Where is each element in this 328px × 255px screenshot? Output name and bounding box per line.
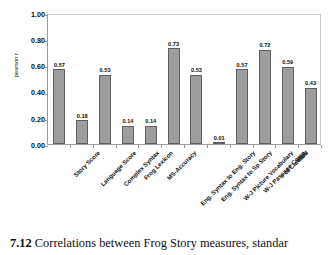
- x-axis-tick-mark: [138, 145, 139, 148]
- figure-bar-chart: pearson r 1.000.800.600.400.200.00 0.570…: [0, 0, 328, 255]
- x-axis-tick-mark: [116, 145, 117, 148]
- caption-text: Correlations between Frog Story measures…: [35, 236, 288, 250]
- bar[interactable]: [259, 50, 271, 144]
- x-axis-tick-mark: [230, 145, 231, 148]
- bar-value-label: 0.53: [100, 67, 111, 73]
- y-axis-tick-label: 1.00: [31, 11, 45, 18]
- y-axis-tick-label: 0.60: [31, 63, 45, 70]
- bar-slot: 0.14: [139, 15, 162, 144]
- x-axis-tick-mark: [207, 145, 208, 148]
- x-axis-tick-mark: [184, 145, 185, 148]
- bars-layer: 0.570.180.530.140.140.730.530.010.570.72…: [48, 15, 320, 144]
- x-axis-tick-mark: [70, 145, 71, 148]
- bar-slot: 0.53: [94, 15, 117, 144]
- figure-number: 7.12: [10, 236, 32, 250]
- bar[interactable]: [213, 142, 225, 144]
- bar-slot: 0.72: [254, 15, 277, 144]
- x-axis-tick-mark: [275, 145, 276, 148]
- bar-slot: 0.01: [208, 15, 231, 144]
- bar-slot: 0.59: [276, 15, 299, 144]
- bar[interactable]: [145, 126, 157, 144]
- bar[interactable]: [305, 88, 317, 144]
- bar-slot: 0.57: [231, 15, 254, 144]
- x-axis-tick-mark: [93, 145, 94, 148]
- bar[interactable]: [53, 69, 65, 144]
- x-axis-tick-mark: [161, 145, 162, 148]
- bar-value-label: 0.59: [282, 59, 293, 65]
- x-axis-tick-mark: [253, 145, 254, 148]
- bar[interactable]: [236, 69, 248, 144]
- bar[interactable]: [99, 75, 111, 144]
- bar-value-label: 0.14: [122, 118, 133, 124]
- y-axis-tick-label: 0.40: [31, 89, 45, 96]
- y-axis-tick-mark: [45, 41, 48, 42]
- bar-slot: 0.73: [162, 15, 185, 144]
- y-axis-tick-label: 0.00: [31, 142, 45, 149]
- bar-value-label: 0.57: [54, 62, 65, 68]
- bar-value-label: 0.14: [145, 118, 156, 124]
- bar-value-label: 0.43: [305, 80, 316, 86]
- bar-slot: 0.14: [117, 15, 140, 144]
- bar-value-label: 0.53: [191, 67, 202, 73]
- bar-value-label: 0.73: [168, 41, 179, 47]
- figure-caption: 7.12 Correlations between Frog Story mea…: [10, 236, 328, 250]
- x-axis-tick-mark: [321, 145, 322, 148]
- bar[interactable]: [76, 120, 88, 144]
- y-axis-tick-mark: [45, 67, 48, 68]
- bar-slot: 0.18: [71, 15, 94, 144]
- bar-value-label: 0.57: [237, 62, 248, 68]
- bar[interactable]: [190, 75, 202, 144]
- bar-value-label: 0.72: [259, 42, 270, 48]
- bar-slot: 0.43: [299, 15, 322, 144]
- bar[interactable]: [282, 67, 294, 144]
- plot-area: 0.570.180.530.140.140.730.530.010.570.72…: [47, 14, 321, 145]
- bar[interactable]: [168, 48, 180, 144]
- y-axis-tick-mark: [45, 120, 48, 121]
- bar-slot: 0.53: [185, 15, 208, 144]
- bar-value-label: 0.01: [214, 135, 225, 141]
- y-axis-tick-mark: [45, 15, 48, 16]
- y-axis-tick-label: 0.20: [31, 116, 45, 123]
- bar[interactable]: [122, 126, 134, 144]
- bar-slot: 0.57: [48, 15, 71, 144]
- y-axis-tick-label: 0.80: [31, 37, 45, 44]
- x-axis-category-label: Story Score: [72, 149, 101, 178]
- y-axis-tick-mark: [45, 146, 48, 147]
- x-axis-tick-mark: [298, 145, 299, 148]
- x-axis-category-label: MLU: [295, 149, 309, 163]
- y-axis-tick-labels: 1.000.800.600.400.200.00: [19, 11, 45, 145]
- y-axis-tick-mark: [45, 94, 48, 95]
- bar-value-label: 0.18: [77, 113, 88, 119]
